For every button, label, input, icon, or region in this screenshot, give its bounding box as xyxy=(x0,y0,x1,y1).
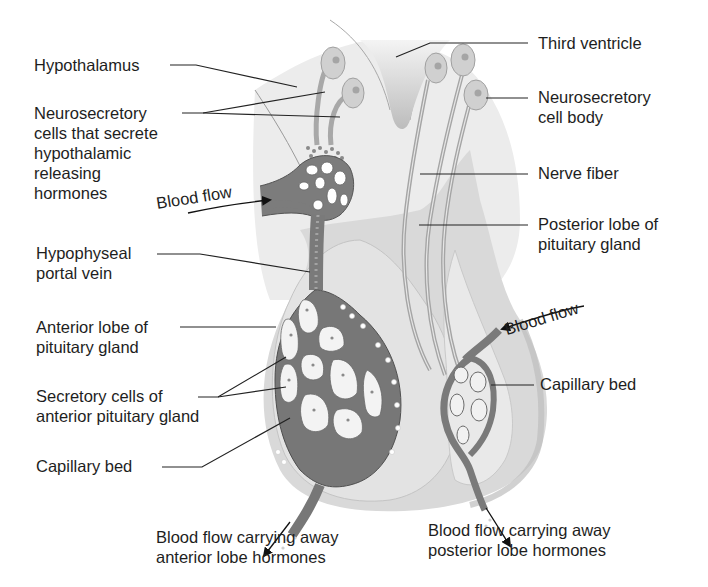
label-third-ventricle: Third ventricle xyxy=(538,33,642,53)
label-line: hormones xyxy=(34,183,158,203)
label-line: cell body xyxy=(538,107,651,127)
label-neurosecretory-cells: Neurosecretory cells that secrete hypoth… xyxy=(34,103,158,203)
label-line: cells that secrete xyxy=(34,123,158,143)
label-capillary-bed-anterior: Capillary bed xyxy=(36,456,132,476)
label-line: Neurosecretory xyxy=(538,87,651,107)
label-line: hypothalamic xyxy=(34,143,158,163)
label-line: Hypophyseal xyxy=(36,243,131,263)
label-line: Anterior lobe of xyxy=(36,317,148,337)
label-capillary-bed-posterior: Capillary bed xyxy=(540,374,636,394)
label-hypophyseal-portal-vein: Hypophyseal portal vein xyxy=(36,243,131,283)
label-neurosecretory-cell-body: Neurosecretory cell body xyxy=(538,87,651,127)
label-hypothalamus: Hypothalamus xyxy=(34,55,139,75)
label-line: Blood flow carrying away xyxy=(156,527,339,547)
label-secretory-cells: Secretory cells of anterior pituitary gl… xyxy=(36,386,199,426)
label-line: pituitary gland xyxy=(36,337,148,357)
label-line: posterior lobe hormones xyxy=(428,540,611,560)
label-line: Blood flow carrying away xyxy=(428,520,611,540)
label-nerve-fiber: Nerve fiber xyxy=(538,163,619,183)
label-line: releasing xyxy=(34,163,158,183)
label-anterior-outflow: Blood flow carrying away anterior lobe h… xyxy=(156,527,339,567)
label-posterior-lobe: Posterior lobe of pituitary gland xyxy=(538,214,658,254)
label-anterior-lobe: Anterior lobe of pituitary gland xyxy=(36,317,148,357)
label-line: Secretory cells of xyxy=(36,386,199,406)
portal-vein xyxy=(316,215,318,290)
label-line: pituitary gland xyxy=(538,234,658,254)
label-posterior-outflow: Blood flow carrying away posterior lobe … xyxy=(428,520,611,560)
label-line: anterior lobe hormones xyxy=(156,547,339,567)
label-line: Neurosecretory xyxy=(34,103,158,123)
label-line: Posterior lobe of xyxy=(538,214,658,234)
label-line: portal vein xyxy=(36,263,131,283)
label-line: anterior pituitary gland xyxy=(36,406,199,426)
